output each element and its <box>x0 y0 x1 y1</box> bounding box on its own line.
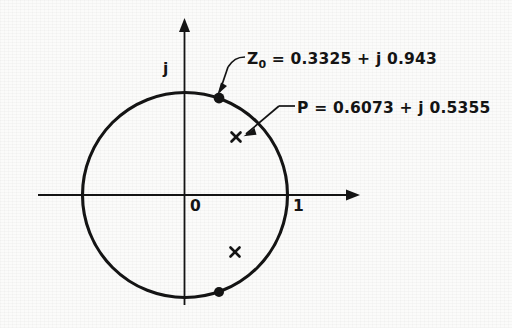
annotation-label-z0: Z0 = 0.3325 + j 0.943 <box>247 52 437 70</box>
imaginary-axis-label: j <box>163 62 168 78</box>
unit-tick-label: 1 <box>293 199 304 215</box>
zero-marker-z0-conjugate <box>214 287 224 297</box>
annotation-p-equals: = <box>309 99 333 117</box>
pole-marker-p <box>232 133 241 142</box>
leader-p-arrowhead-icon <box>244 128 257 136</box>
annotation-z0-symbol: Z <box>247 50 258 68</box>
figure-canvas: Z0 = 0.3325 + j 0.943 P = 0.6073 + j 0.5… <box>0 0 512 328</box>
annotation-label-p: P = 0.6073 + j 0.5355 <box>297 101 490 117</box>
zero-marker-z0 <box>214 93 225 104</box>
leader-z0-arrowhead-icon <box>218 83 228 95</box>
annotation-p-value: 0.6073 + j 0.5355 <box>333 99 491 117</box>
annotation-z0-value: 0.3325 + j 0.943 <box>291 50 438 68</box>
leader-p <box>244 106 296 136</box>
leader-z0 <box>218 57 246 95</box>
leader-z0-line <box>228 57 245 67</box>
pole-marker-p-conjugate <box>231 248 240 257</box>
annotation-z0-subscript: 0 <box>258 58 266 71</box>
real-axis-arrowhead-icon <box>346 190 360 201</box>
annotation-z0-equals: = <box>266 50 290 68</box>
origin-label: 0 <box>190 199 201 215</box>
annotation-p-symbol: P <box>297 99 309 117</box>
imaginary-axis-arrowhead-icon <box>179 18 190 32</box>
imaginary-axis <box>179 18 190 305</box>
